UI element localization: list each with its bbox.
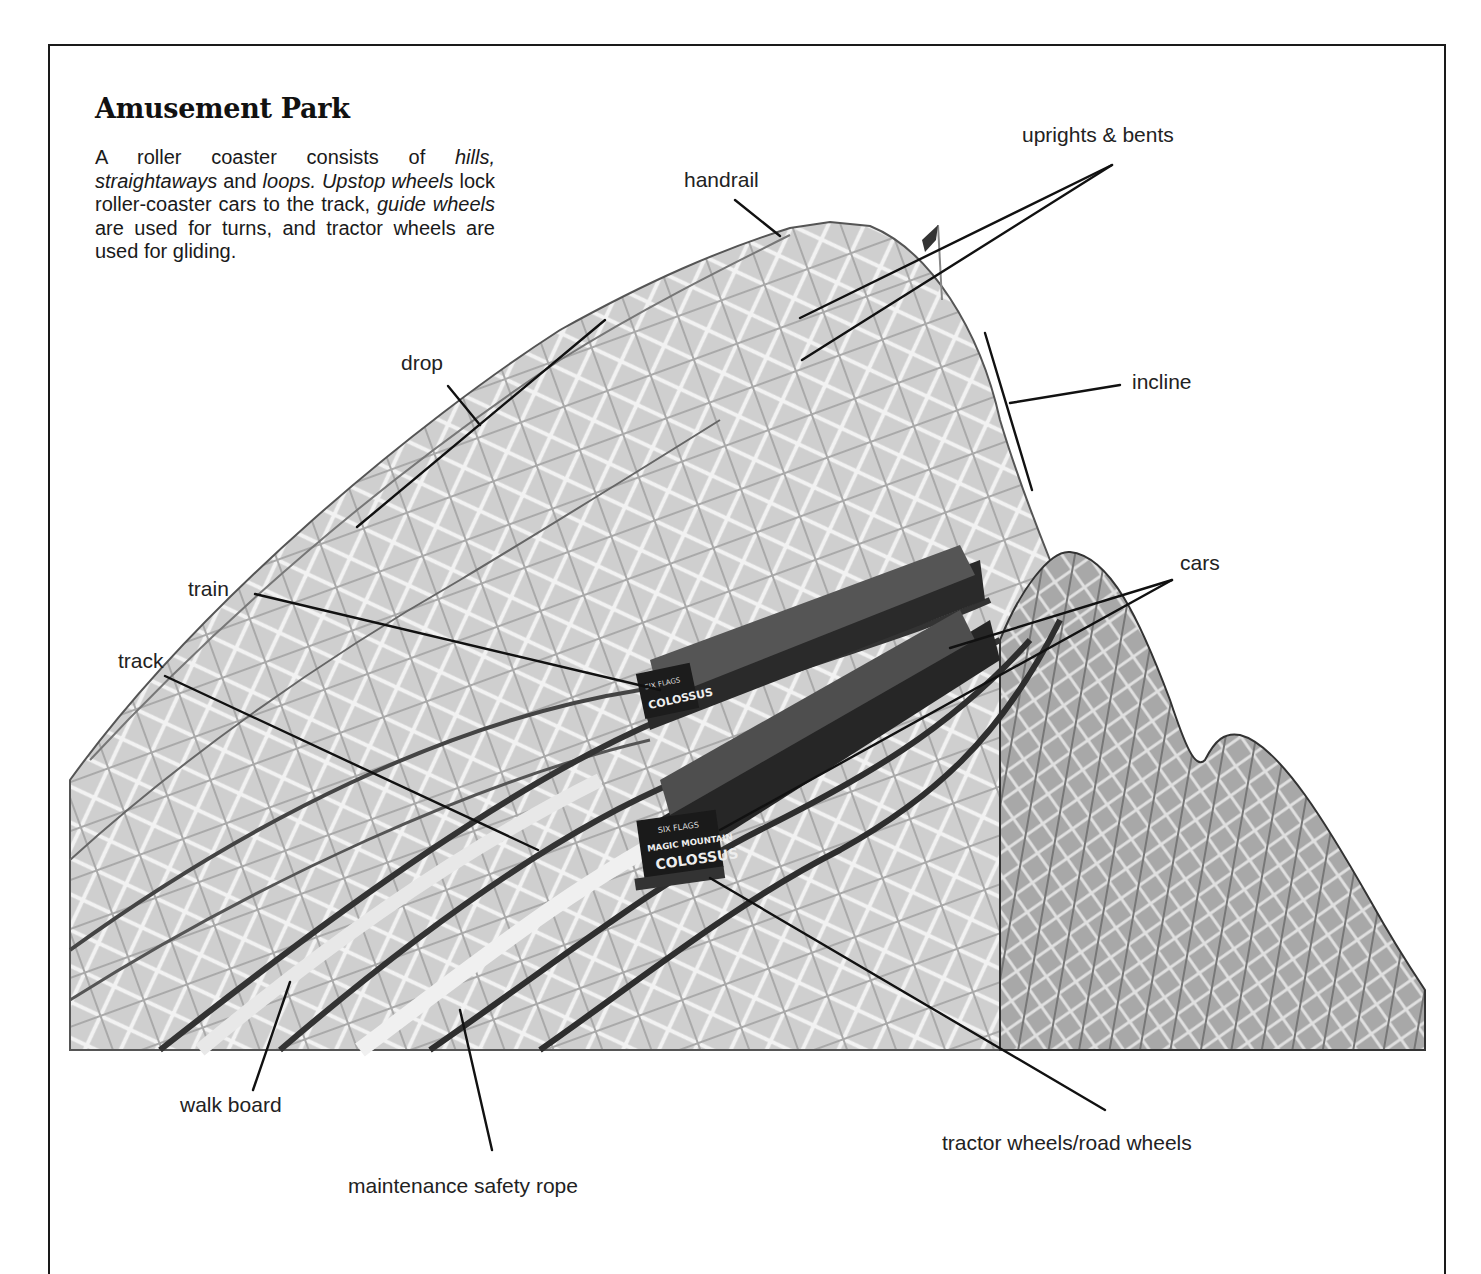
label-cars: cars [1180,552,1220,573]
incline-leader [1010,385,1120,403]
label-track: track [118,650,164,671]
secondary-hills-structure [1000,552,1425,1050]
label-uprights-bents: uprights & bents [1022,124,1174,145]
label-incline: incline [1132,371,1192,392]
handrail-leader [735,200,780,236]
label-handrail: handrail [684,169,759,190]
label-walk-board: walk board [180,1094,282,1115]
label-tractor-wheels: tractor wheels/road wheels [942,1132,1192,1153]
label-maintenance-safety-rope: maintenance safety rope [348,1175,578,1196]
label-drop: drop [401,352,443,373]
label-train: train [188,578,229,599]
